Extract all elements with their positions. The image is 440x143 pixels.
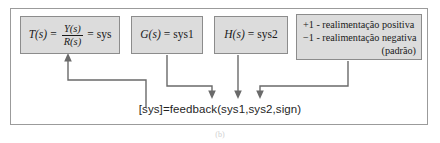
fraction-numerator: Y(s) <box>62 23 83 34</box>
forward-gain-equals: = <box>164 29 171 41</box>
feedback-gain-equation: H(s) = sys2 <box>224 29 277 41</box>
transfer-function-equation: T(s) = Y(s) R(s) = sys <box>29 23 112 47</box>
sign-legend-line-positive: +1 - realimentação positiva <box>303 18 416 31</box>
transfer-function-equals-2: = <box>87 29 94 41</box>
sign-legend-line-default: (padrão) <box>303 44 416 57</box>
forward-gain-rhs: sys1 <box>173 29 193 41</box>
forward-gain-box: G(s) = sys1 <box>131 16 203 54</box>
figure-caption: (b) <box>0 130 440 139</box>
sign-legend-line-negative: −1 - realimentação negativa <box>303 31 416 44</box>
transfer-function-rhs: sys <box>97 29 112 41</box>
feedback-gain-box: H(s) = sys2 <box>214 16 288 54</box>
command-syntax-label: [sys]=feedback(sys1,sys2,sign) <box>0 103 440 115</box>
transfer-function-fraction: Y(s) R(s) <box>62 23 84 47</box>
connector-sys2-to-command <box>234 55 242 99</box>
transfer-function-lhs: T(s) <box>29 29 48 41</box>
connector-sys1-to-command <box>167 55 216 99</box>
connector-output-to-transfer <box>64 53 146 107</box>
forward-gain-equation: G(s) = sys1 <box>140 29 193 41</box>
transfer-function-equals: = <box>50 29 57 41</box>
fraction-denominator: R(s) <box>62 35 84 47</box>
transfer-function-box: T(s) = Y(s) R(s) = sys <box>20 16 120 54</box>
feedback-gain-rhs: sys2 <box>257 29 277 41</box>
feedback-gain-lhs: H(s) <box>224 29 244 41</box>
feedback-command-diagram: T(s) = Y(s) R(s) = sys G(s) = sys1 H(s) … <box>0 0 440 143</box>
connector-sign-to-command <box>256 61 348 99</box>
feedback-gain-equals: = <box>248 29 255 41</box>
sign-legend-box: +1 - realimentação positiva −1 - realime… <box>296 14 422 60</box>
forward-gain-lhs: G(s) <box>140 29 160 41</box>
